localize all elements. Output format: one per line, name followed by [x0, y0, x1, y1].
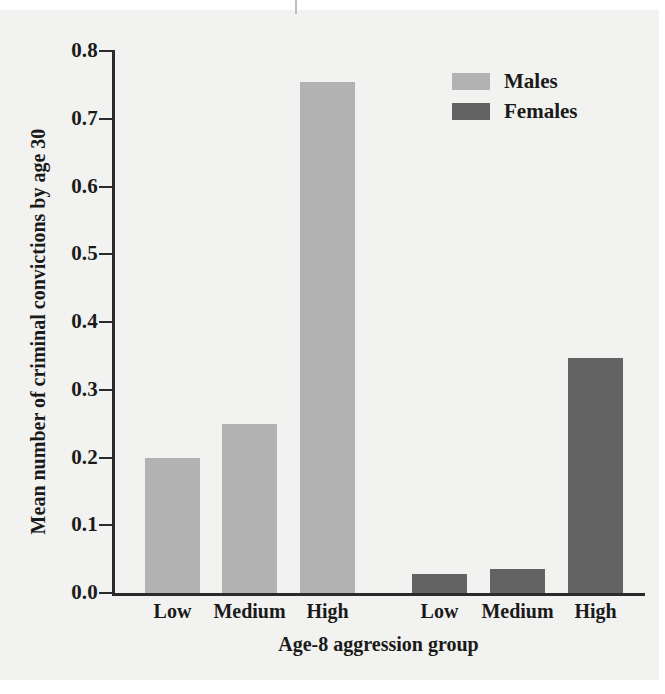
- y-axis-tick-label: 0.8: [42, 38, 98, 63]
- legend-label-males: Males: [504, 69, 558, 94]
- y-axis-tick: [99, 118, 113, 120]
- y-axis-tick-label: 0.2: [42, 445, 98, 470]
- chart-figure: 0.00.10.20.30.40.50.60.70.8 LowMediumHig…: [0, 0, 665, 694]
- x-axis-title: Age-8 aggression group: [112, 633, 645, 656]
- y-axis-tick: [99, 50, 113, 52]
- legend-item-females: Females: [452, 96, 577, 126]
- y-axis-tick-label: 0.0: [42, 580, 98, 605]
- y-axis-tick-label: 0.6: [42, 174, 98, 199]
- legend-label-females: Females: [504, 99, 577, 124]
- y-axis-title: Mean number of criminal convictions by a…: [27, 72, 50, 592]
- bar-males-medium: [222, 424, 277, 593]
- y-axis-tick: [99, 524, 113, 526]
- plot-area: 0.00.10.20.30.40.50.60.70.8 LowMediumHig…: [0, 0, 665, 694]
- legend-item-males: Males: [452, 66, 577, 96]
- legend-swatch-males-icon: [452, 73, 490, 90]
- y-axis-tick: [99, 389, 113, 391]
- y-axis-tick: [99, 592, 113, 594]
- x-axis-label-females-high: High: [546, 600, 646, 623]
- y-axis-tick-label: 0.3: [42, 377, 98, 402]
- bar-males-low: [145, 458, 200, 594]
- bar-females-medium: [490, 569, 545, 593]
- y-axis-tick: [99, 457, 113, 459]
- y-axis-tick-label: 0.5: [42, 241, 98, 266]
- y-axis-tick-label: 0.4: [42, 309, 98, 334]
- y-axis-tick: [99, 186, 113, 188]
- bar-females-high: [568, 358, 623, 593]
- y-axis-tick-label: 0.7: [42, 106, 98, 131]
- bar-males-high: [300, 82, 355, 594]
- bar-females-low: [412, 574, 467, 593]
- x-axis-line: [112, 593, 645, 596]
- legend: Males Females: [452, 66, 577, 126]
- y-axis-tick: [99, 253, 113, 255]
- legend-swatch-females-icon: [452, 103, 490, 120]
- y-axis-tick: [99, 321, 113, 323]
- x-axis-label-males-high: High: [278, 600, 378, 623]
- y-axis-line: [112, 50, 115, 596]
- y-axis-tick-label: 0.1: [42, 512, 98, 537]
